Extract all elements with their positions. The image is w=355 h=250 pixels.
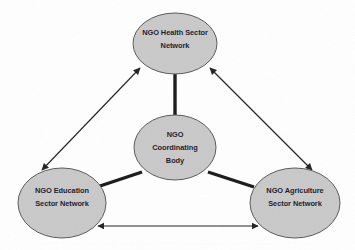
scan-edge-artifact bbox=[18, 243, 318, 244]
ngo-network-diagram: NGO Health Sector Network NGO Coordinati… bbox=[0, 0, 355, 250]
diagram-canvas: NGO Health Sector Network NGO Coordinati… bbox=[0, 0, 355, 250]
scan-grain-overlay bbox=[0, 0, 355, 250]
